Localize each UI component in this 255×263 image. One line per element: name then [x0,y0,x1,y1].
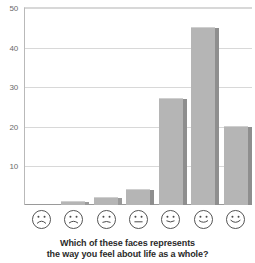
face-slightly-sad-icon [90,209,122,233]
bar[interactable] [191,27,215,205]
chart-page: 50 40 30 20 10 Which of these faces repr… [0,0,255,263]
bar-series [25,7,252,205]
face-scale-axis [25,209,252,233]
bar-slot [90,7,122,205]
bar[interactable] [126,189,150,205]
face-very-happy-icon [220,209,252,233]
y-tick-label-50: 50 [0,4,18,13]
bar-slot [122,7,154,205]
bar[interactable] [224,126,248,205]
bar-slot [155,7,187,205]
bar[interactable] [94,197,118,205]
caption-line-2: the way you feel about life as a whole? [0,249,255,260]
bar-slot [220,7,252,205]
y-tick-label-40: 40 [0,43,18,52]
bar-slot [187,7,219,205]
face-slightly-happy-icon [155,209,187,233]
bar[interactable] [61,201,85,205]
face-sad-icon [57,209,89,233]
y-tick-label-10: 10 [0,162,18,171]
face-neutral-icon [122,209,154,233]
y-tick-label-30: 30 [0,83,18,92]
face-very-sad-icon [25,209,57,233]
bar[interactable] [159,98,183,205]
bar-slot [57,7,89,205]
bar-chart: 50 40 30 20 10 [0,0,255,207]
face-happy-icon [187,209,219,233]
caption-line-1: Which of these faces represents [0,238,255,249]
chart-caption: Which of these faces represents the way … [0,238,255,260]
bar-slot [25,7,57,205]
y-tick-label-20: 20 [0,122,18,131]
